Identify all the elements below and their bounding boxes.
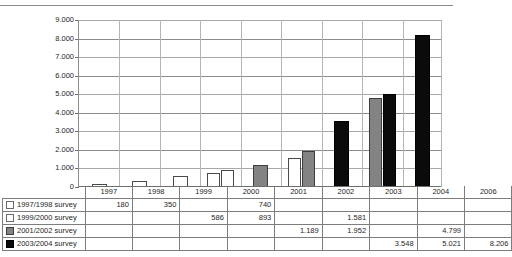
table-row: 1997/1998 survey180350740 xyxy=(3,199,512,212)
bar-2004-series2 xyxy=(369,98,382,187)
bar-group-2006 xyxy=(403,20,443,187)
y-axis-tick-label: 4.000 xyxy=(14,109,74,117)
plot-area-wrapper: 9.0008.0007.0006.0005.0004.0003.0002.000… xyxy=(0,8,453,188)
legend-cell: 1997/1998 survey xyxy=(3,199,86,212)
legend-cell: 2001/2002 survey xyxy=(3,225,86,238)
table-cell xyxy=(370,212,417,225)
bar-2002-series2 xyxy=(302,151,315,187)
table-row: 2003/2004 survey3.5485.0218.206 xyxy=(3,238,512,251)
table-column-header-2006: 2006 xyxy=(465,186,512,199)
y-axis-tick-label: 3.000 xyxy=(14,127,74,135)
legend-label: 1997/1998 survey xyxy=(17,201,77,209)
data-table: 199719981999200020012002200320042006 199… xyxy=(2,186,512,251)
table-row: 1999/2000 survey5868931.581 xyxy=(3,212,512,225)
table-cell: 180 xyxy=(85,199,132,212)
table-header-row: 199719981999200020012002200320042006 xyxy=(3,186,512,199)
gray-swatch xyxy=(6,227,14,235)
table-cell xyxy=(227,225,274,238)
y-axis-tick-label: 9.000 xyxy=(14,16,74,24)
table-column-header-1998: 1998 xyxy=(132,186,179,199)
table-cell xyxy=(180,238,227,251)
table-column-header-2000: 2000 xyxy=(227,186,274,199)
header-divider-rule xyxy=(0,5,453,6)
table-cell xyxy=(465,225,512,238)
table-cell: 350 xyxy=(132,199,179,212)
table-cell: 5.021 xyxy=(417,238,464,251)
legend-cell: 1999/2000 survey xyxy=(3,212,86,225)
table-cell xyxy=(417,199,464,212)
table-cell xyxy=(465,199,512,212)
table-cell: 893 xyxy=(227,212,274,225)
table-column-header-1999: 1999 xyxy=(180,186,227,199)
table-cell xyxy=(132,238,179,251)
table-cell: 8.206 xyxy=(465,238,512,251)
y-axis-tick-label: 8.000 xyxy=(14,35,74,43)
table-cell xyxy=(180,199,227,212)
table-cell xyxy=(85,225,132,238)
table-cell xyxy=(370,225,417,238)
table-column-header-2001: 2001 xyxy=(275,186,322,199)
table-cell xyxy=(275,199,322,212)
legend-label: 2003/2004 survey xyxy=(17,240,77,248)
black-swatch xyxy=(6,240,14,248)
table-head: 199719981999200020012002200320042006 xyxy=(3,186,512,199)
table-body: 1997/1998 survey1803507401999/2000 surve… xyxy=(3,199,512,251)
table-cell xyxy=(275,212,322,225)
y-axis-tick-label: 7.000 xyxy=(14,53,74,61)
bar-group-2000 xyxy=(200,20,240,187)
table-cell xyxy=(180,225,227,238)
table-cell xyxy=(322,238,369,251)
table-cell xyxy=(275,238,322,251)
table-column-header-2002: 2002 xyxy=(322,186,369,199)
white-swatch xyxy=(6,214,14,222)
y-axis-tick-label: 1.000 xyxy=(14,164,74,172)
bar-2000-series0 xyxy=(207,173,220,187)
table-cell xyxy=(85,212,132,225)
table-column-header-2004: 2004 xyxy=(417,186,464,199)
bar-2001-series2 xyxy=(253,165,268,187)
bar-group-1999 xyxy=(160,20,200,187)
table-cell xyxy=(417,212,464,225)
bar-group-1998 xyxy=(119,20,159,187)
bar-2003-series3 xyxy=(334,121,349,187)
table-cell: 4.799 xyxy=(417,225,464,238)
table-cell: 740 xyxy=(227,199,274,212)
table-cell xyxy=(85,238,132,251)
table-corner-cell xyxy=(3,186,86,199)
table-cell xyxy=(322,199,369,212)
bar-group-2002 xyxy=(281,20,321,187)
y-axis-tick-label: 6.000 xyxy=(14,72,74,80)
white-swatch xyxy=(6,201,14,209)
table-cell xyxy=(132,225,179,238)
table-cell: 3.548 xyxy=(370,238,417,251)
bar-2002-series1 xyxy=(288,158,301,187)
legend-cell: 2003/2004 survey xyxy=(3,238,86,251)
table-cell xyxy=(370,199,417,212)
bar-2006-series3 xyxy=(415,35,430,187)
y-axis-tick-label: 5.000 xyxy=(14,90,74,98)
table-row: 2001/2002 survey1.1891.9524.799 xyxy=(3,225,512,238)
table-cell xyxy=(227,238,274,251)
bar-group-2001 xyxy=(241,20,281,187)
bar-group-2003 xyxy=(322,20,362,187)
table-cell: 1.189 xyxy=(275,225,322,238)
legend-label: 1999/2000 survey xyxy=(17,214,77,222)
bar-2000-series1 xyxy=(221,170,234,187)
bar-group-1997 xyxy=(79,20,119,187)
table-column-header-1997: 1997 xyxy=(85,186,132,199)
bar-2004-series3 xyxy=(383,94,396,187)
table-column-header-2003: 2003 xyxy=(370,186,417,199)
table-cell xyxy=(465,212,512,225)
table-cell: 1.952 xyxy=(322,225,369,238)
data-table-wrapper: 199719981999200020012002200320042006 199… xyxy=(2,186,451,251)
y-axis-tick-label: 2.000 xyxy=(14,146,74,154)
table-cell: 1.581 xyxy=(322,212,369,225)
bar-group-2004 xyxy=(362,20,402,187)
legend-label: 2001/2002 survey xyxy=(17,227,77,235)
table-cell xyxy=(132,212,179,225)
table-cell: 586 xyxy=(180,212,227,225)
plot-area xyxy=(78,20,442,187)
